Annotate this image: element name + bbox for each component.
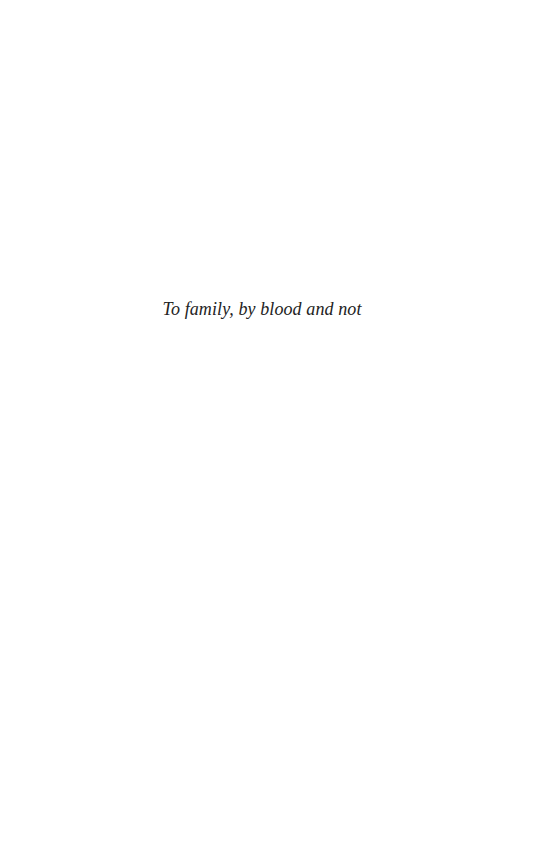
dedication-text: To family, by blood and not [0, 297, 524, 321]
book-page: To family, by blood and not [0, 0, 537, 859]
